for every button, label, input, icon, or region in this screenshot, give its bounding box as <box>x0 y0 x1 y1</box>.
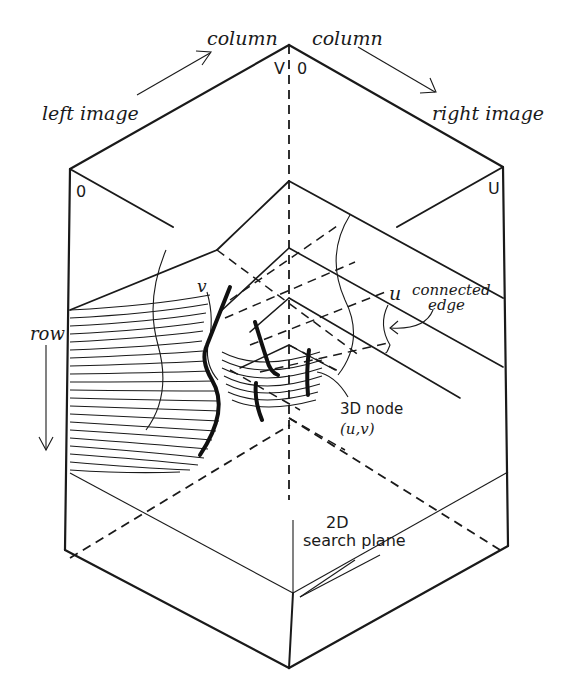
column-left-arrow-icon <box>137 51 211 95</box>
search-plane-2d <box>70 418 508 597</box>
node-label-line2: (u,v) <box>340 420 375 438</box>
zero-left-label: 0 <box>76 182 86 201</box>
plane-label-line2: search plane <box>303 531 406 550</box>
edge-pointer-arrow-icon <box>390 310 433 334</box>
right-image-label: right image <box>432 102 544 124</box>
row-slice-planes <box>70 181 503 450</box>
u-axis-label: U <box>488 179 500 198</box>
plane-label-line1: 2D <box>326 513 349 532</box>
zero-top-label: 0 <box>297 59 307 78</box>
arrows <box>39 47 436 597</box>
outer-box <box>65 45 508 668</box>
left-image-label: left image <box>42 102 139 124</box>
stereo-search-space-diagram: column column left image right image V 0… <box>0 0 569 689</box>
v-curve-label: v <box>197 276 207 296</box>
column-left-label: column <box>207 27 278 49</box>
row-label: row <box>30 323 65 344</box>
plane-pointer-line <box>300 560 355 597</box>
node-label-line1: 3D node <box>340 400 403 418</box>
row-arrow-icon <box>39 345 53 450</box>
row-hatching <box>70 295 322 473</box>
column-right-label: column <box>312 27 383 49</box>
u-curve-label: u <box>389 282 401 304</box>
connected-edge-label-line2: edge <box>428 296 465 314</box>
column-right-arrow-icon <box>358 47 436 93</box>
v-axis-label: V <box>274 59 285 78</box>
